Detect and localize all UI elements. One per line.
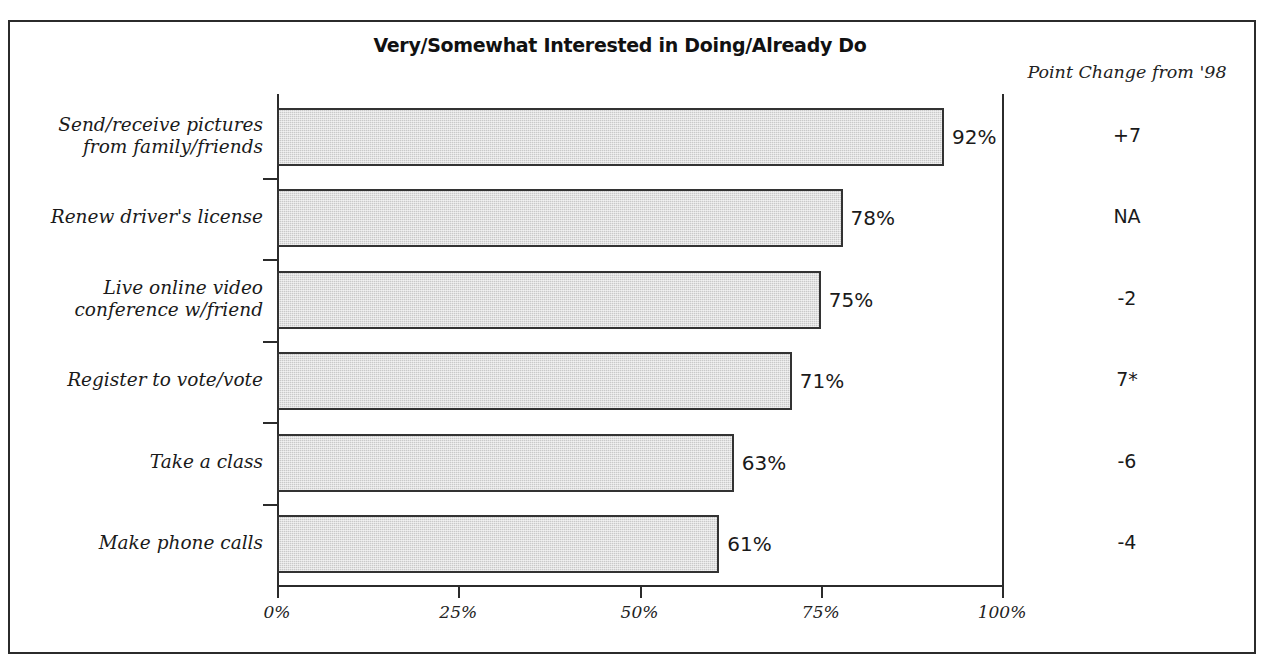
bar[interactable] — [277, 434, 734, 492]
x-axis-tick-label: 50% — [621, 602, 659, 622]
bar[interactable] — [277, 271, 821, 329]
bar-row: 61% — [277, 515, 1002, 573]
category-label-line: from family/friends — [13, 136, 263, 158]
bar-value-label: 61% — [727, 532, 771, 556]
bar-row: 71% — [277, 352, 1002, 410]
bar[interactable] — [277, 515, 719, 573]
point-change-column-header: Point Change from '98 — [1012, 62, 1242, 82]
bar-value-label: 75% — [829, 288, 873, 312]
point-change-value: NA — [1012, 205, 1242, 227]
y-axis-tick — [263, 259, 278, 261]
category-label-line: Renew driver's license — [13, 206, 263, 228]
bar-value-label: 71% — [800, 369, 844, 393]
x-axis-tick-label: 75% — [802, 602, 840, 622]
bar-row: 63% — [277, 434, 1002, 492]
point-change-value: -4 — [1012, 531, 1242, 553]
bar-value-label: 63% — [742, 451, 786, 475]
bar-row: 75% — [277, 271, 1002, 329]
bar[interactable] — [277, 352, 792, 410]
category-label-line: conference w/friend — [13, 299, 263, 321]
category-label: Send/receive picturesfrom family/friends — [13, 114, 263, 158]
category-label-line: Take a class — [13, 451, 263, 473]
y-axis-tick — [263, 341, 278, 343]
bar[interactable] — [277, 189, 843, 247]
category-label-line: Send/receive pictures — [13, 114, 263, 136]
plot-right-rule — [1002, 94, 1004, 587]
point-change-value: -6 — [1012, 450, 1242, 472]
point-change-value: -2 — [1012, 287, 1242, 309]
chart-title: Very/Somewhat Interested in Doing/Alread… — [230, 34, 1010, 56]
y-axis-tick — [263, 422, 278, 424]
y-axis-tick — [263, 178, 278, 180]
x-axis-tick — [1002, 585, 1004, 598]
point-change-value: +7 — [1012, 124, 1242, 146]
bar[interactable] — [277, 108, 944, 166]
category-label-line: Register to vote/vote — [13, 369, 263, 391]
bar-row: 78% — [277, 189, 1002, 247]
chart-figure: Very/Somewhat Interested in Doing/Alread… — [0, 0, 1264, 670]
point-change-value: 7* — [1012, 368, 1242, 390]
category-label-line: Live online video — [13, 277, 263, 299]
x-axis-tick — [458, 585, 460, 598]
category-label: Make phone calls — [13, 532, 263, 554]
x-axis-tick-label: 25% — [439, 602, 477, 622]
bar-value-label: 78% — [851, 206, 895, 230]
y-axis-tick — [263, 504, 278, 506]
bar-value-label: 92% — [952, 125, 996, 149]
category-label: Take a class — [13, 451, 263, 473]
x-axis-tick — [640, 585, 642, 598]
x-axis-tick-label: 0% — [264, 602, 291, 622]
x-axis-tick — [821, 585, 823, 598]
category-label: Register to vote/vote — [13, 369, 263, 391]
category-axis-labels: Send/receive picturesfrom family/friends… — [8, 0, 263, 670]
plot-area: 92%78%75%71%63%61% — [277, 96, 1002, 585]
category-label-line: Make phone calls — [13, 532, 263, 554]
category-label: Renew driver's license — [13, 206, 263, 228]
x-axis-tick — [277, 585, 279, 598]
bar-row: 92% — [277, 108, 1002, 166]
x-axis-tick-label: 100% — [978, 602, 1027, 622]
category-label: Live online videoconference w/friend — [13, 277, 263, 321]
